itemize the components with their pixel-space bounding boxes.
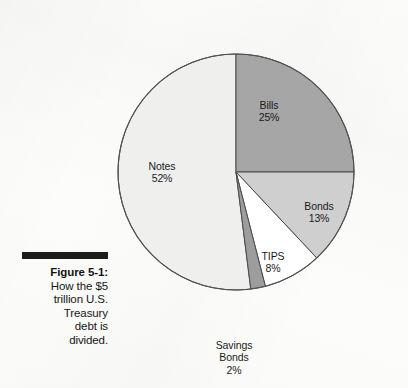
caption-figure-number: Figure 5-1:	[22, 266, 108, 280]
caption-line-1: How the $5	[22, 280, 108, 294]
caption-rule-bar	[22, 252, 108, 259]
pie-label-notes-name: Notes	[131, 160, 193, 172]
pie-label-notes: Notes 52%	[131, 160, 193, 185]
pie-label-savings-bonds-name-line1: Savings	[186, 339, 282, 351]
pie-label-bonds-name: Bonds	[288, 200, 350, 212]
pie-label-tips: TIPS 8%	[247, 250, 299, 275]
pie-label-notes-value: 52%	[131, 172, 193, 184]
pie-label-bonds: Bonds 13%	[288, 200, 350, 225]
caption-line-4: debt is	[22, 320, 108, 334]
pie-label-bills-value: 25%	[238, 111, 300, 123]
pie-label-savings-bonds: Savings Bonds 2%	[186, 339, 282, 376]
pie-label-savings-bonds-name-line2: Bonds	[186, 351, 282, 363]
caption-line-5: divided.	[22, 334, 108, 348]
caption-line-2: trillion U.S.	[22, 293, 108, 307]
caption-line-3: Treasury	[22, 307, 108, 321]
pie-label-savings-bonds-value: 2%	[186, 364, 282, 376]
pie-label-bills: Bills 25%	[238, 99, 300, 124]
pie-label-bonds-value: 13%	[288, 212, 350, 224]
pie-label-tips-value: 8%	[247, 262, 299, 274]
figure-caption: Figure 5-1: How the $5 trillion U.S. Tre…	[22, 252, 108, 347]
pie-label-bills-name: Bills	[238, 99, 300, 111]
pie-label-tips-name: TIPS	[247, 250, 299, 262]
